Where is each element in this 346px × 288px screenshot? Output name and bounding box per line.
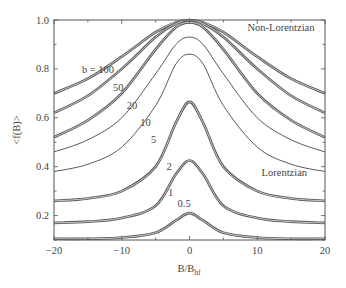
series-label: b = 100 xyxy=(82,64,114,75)
y-tick-label: 0.8 xyxy=(36,63,49,74)
series-label: 0.5 xyxy=(178,198,191,209)
chart: −20−10010200.20.40.60.81.0b = 1005020105… xyxy=(0,0,346,288)
series-label: 1 xyxy=(168,187,173,198)
x-axis-title-subscript: hf xyxy=(194,268,201,277)
y-tick-label: 0.2 xyxy=(36,210,49,221)
curve-b-0-5 xyxy=(54,213,325,239)
series-label: 50 xyxy=(113,82,124,93)
series-label: 10 xyxy=(140,117,151,128)
y-tick-label: 1.0 xyxy=(36,15,49,26)
curve-b-20-outer xyxy=(54,22,325,137)
x-tick-label: 20 xyxy=(320,245,331,256)
curve-b-20 xyxy=(54,22,325,137)
x-tick-label: 10 xyxy=(252,245,263,256)
labels-group: −20−10010200.20.40.60.81.0b = 1005020105… xyxy=(36,15,330,257)
series-label: 5 xyxy=(151,134,156,145)
curve-b-0-5-outer xyxy=(54,213,325,239)
annotation-non-lorentzian: Non-Lorentzian xyxy=(247,22,315,33)
x-tick-label: 0 xyxy=(187,245,192,256)
y-axis-title: <f(B)> xyxy=(11,115,23,144)
y-tick-label: 0.6 xyxy=(36,112,49,123)
x-tick-label: −20 xyxy=(46,245,62,256)
series-label: 2 xyxy=(167,161,172,172)
y-tick-label: 0.4 xyxy=(36,161,50,172)
annotation-lorentzian: Lorentzian xyxy=(262,167,308,178)
x-tick-label: −10 xyxy=(114,245,130,256)
x-axis-title: B/Bhf xyxy=(177,263,201,277)
series-label: 20 xyxy=(127,100,138,111)
